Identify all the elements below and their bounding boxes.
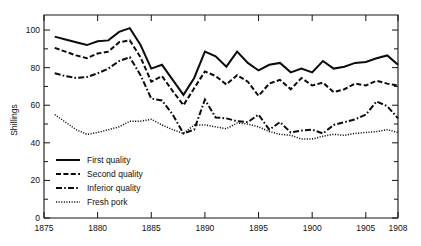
chart-background — [0, 0, 421, 246]
x-tick-label: 1885 — [142, 223, 161, 233]
line-chart: 100806040200 187518801885189018951900190… — [0, 0, 421, 246]
legend-label: Second quality — [87, 169, 144, 179]
x-tick-label: 1905 — [356, 223, 375, 233]
legend-label: First quality — [87, 155, 131, 165]
x-tick-label: 1890 — [195, 223, 214, 233]
x-tick-label: 1875 — [35, 223, 54, 233]
legend-label: Fresh pork — [87, 197, 128, 207]
y-tick-label: 40 — [31, 138, 41, 148]
x-tick-label: 1908 — [389, 223, 408, 233]
y-tick-label: 100 — [26, 25, 40, 35]
x-tick-label: 1895 — [249, 223, 268, 233]
y-tick-label: 20 — [31, 175, 41, 185]
x-tick-label: 1880 — [88, 223, 107, 233]
legend-label: Inferior quality — [87, 183, 141, 193]
y-axis-title: Shillings — [9, 104, 19, 136]
y-tick-label: 0 — [35, 213, 40, 223]
chart-container: 100806040200 187518801885189018951900190… — [0, 0, 421, 246]
y-tick-label: 80 — [31, 63, 41, 73]
y-tick-label: 60 — [31, 100, 41, 110]
x-tick-label: 1900 — [303, 223, 322, 233]
